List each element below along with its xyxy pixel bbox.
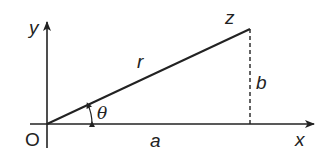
angle-arc [88,105,92,124]
real-part-label: a [150,130,161,151]
modulus-label: r [137,51,144,72]
x-axis-label: x [294,129,306,150]
origin-label: O [25,129,40,150]
y-axis-label: y [27,17,40,38]
imaginary-part-label: b [256,72,267,93]
complex-plane-diagram: y O x z r θ a b [0,0,325,155]
angle-label: θ [97,103,107,123]
modulus-line [47,29,250,124]
point-z-label: z [224,7,235,28]
